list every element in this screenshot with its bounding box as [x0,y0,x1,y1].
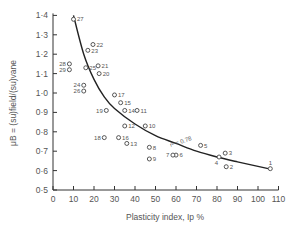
data-point: 23 [86,48,99,54]
x-tick-label: 80 [212,194,222,204]
data-point: 6 [174,152,184,158]
point-marker [102,136,106,140]
point-label: 3 [229,150,233,156]
data-point: 15 [119,100,132,106]
data-point: 25 [84,65,97,71]
y-tick-label: 0·7 [36,146,49,156]
point-marker [224,165,228,169]
data-point: 14 [123,108,136,114]
point-label: 6 [180,152,184,158]
point-marker [104,108,108,112]
data-point: 9 [147,156,157,162]
point-marker [171,153,175,157]
point-label: 27 [77,16,84,22]
y-axis-title: μB = (su)field/(su)vane [8,60,18,146]
y-tick-label: 0·9 [36,107,49,117]
data-point: 11 [135,108,147,114]
data-points: 1234567891011121314151617181920212223242… [59,16,272,170]
point-marker [223,151,227,155]
y-tick-label: 1·2 [36,49,49,59]
point-label: 4 [215,160,219,166]
data-point: 8 [147,145,157,151]
point-marker [125,141,129,145]
data-point: 17 [113,92,126,98]
data-point: 1 [268,160,272,171]
point-label: 9 [153,156,157,162]
x-tick-label: 50 [151,194,161,204]
point-marker [67,62,71,66]
data-point: 16 [117,135,130,141]
point-label: 23 [91,48,98,54]
point-marker [84,66,88,70]
x-tick-label: 110 [272,194,286,204]
point-label: 20 [103,71,110,77]
point-marker [82,83,86,87]
point-marker [67,68,71,72]
data-point: 26 [74,88,86,94]
point-label: 16 [122,135,129,141]
data-point: 2 [224,164,234,170]
data-point: 27 [72,16,85,22]
y-tick-label: 1·1 [36,69,49,79]
point-marker [147,157,151,161]
data-point: 3 [223,150,233,156]
data-point: 5 [199,143,209,149]
point-marker [72,17,76,21]
x-tick-label: 90 [233,194,243,204]
point-label: 12 [128,123,135,129]
point-marker [96,64,100,68]
point-label: 2 [230,164,234,170]
point-marker [199,143,203,147]
point-label: 7 [166,152,170,158]
point-label: 15 [124,100,131,106]
point-marker [91,43,95,47]
scatter-chart: 0·50·60·70·80·91·01·11·21·31·4 010203040… [0,0,298,230]
point-label: 8 [153,145,157,151]
point-marker [123,108,127,112]
x-tick-label: 100 [251,194,265,204]
data-point: 19 [96,108,108,114]
y-tick-label: 0·5 [36,185,49,195]
point-label: 11 [141,108,148,114]
point-marker [143,124,147,128]
point-marker [123,124,127,128]
x-tick-label: 20 [89,194,99,204]
x-tick-label: 70 [192,194,202,204]
point-marker [86,48,90,52]
y-tick-label: 0·6 [36,166,49,176]
point-marker [113,93,117,97]
data-point: 13 [125,141,138,147]
point-label: 18 [94,135,101,141]
x-tick-label: 40 [130,194,140,204]
y-tick-label: 1·3 [36,30,49,40]
point-label: 17 [118,92,125,98]
x-tick-label: 30 [110,194,120,204]
point-marker [135,108,139,112]
data-point: 21 [96,63,109,69]
x-tick-label: 60 [171,194,181,204]
y-tick-label: 1·0 [36,88,49,98]
x-axis: 0102030405060708090100110 [51,186,286,204]
data-point: 20 [97,71,110,77]
data-point: 18 [94,135,106,141]
y-tick-label: 1·4 [36,10,49,20]
point-label: 5 [204,143,208,149]
point-label: 25 [89,65,96,71]
point-marker [268,167,272,171]
data-point: 12 [123,123,136,129]
y-axis: 0·50·60·70·80·91·01·11·21·31·4 [36,10,57,195]
x-axis-title: Plasticity index, Ip % [126,212,204,222]
point-marker [217,155,221,159]
point-label: 26 [74,88,81,94]
y-tick-label: 0·8 [36,127,49,137]
point-label: 21 [102,63,109,69]
point-marker [82,89,86,93]
point-label: 10 [149,123,156,129]
point-label: 19 [96,108,103,114]
x-tick-label: 10 [69,194,79,204]
point-label: 1 [269,160,273,166]
point-marker [117,136,121,140]
point-label: 29 [59,67,66,73]
data-point: 7 [166,152,175,158]
data-point: 10 [143,123,156,129]
